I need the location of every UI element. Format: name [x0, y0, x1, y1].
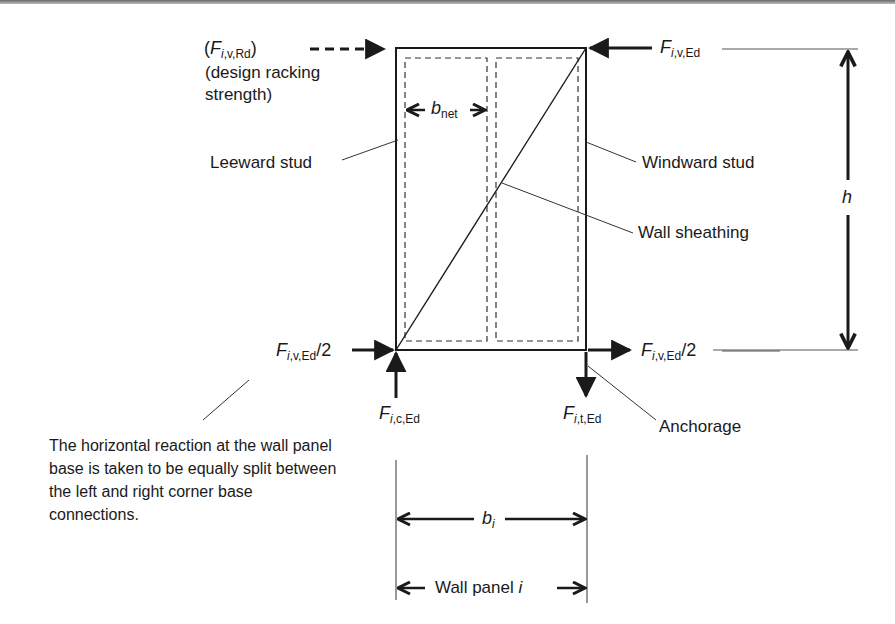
- note-leader: [203, 380, 249, 420]
- sheathing-diagonal: [396, 48, 586, 350]
- design-racking-label-line2: strength): [205, 85, 272, 104]
- height-label: h: [842, 187, 852, 207]
- leeward-stud-label: Leeward stud: [210, 153, 312, 172]
- tension-reaction-label: Fi,t,Ed: [563, 403, 601, 429]
- left-base-reaction-label: Fi,v,Ed/2: [276, 340, 331, 366]
- anchorage-label: Anchorage: [659, 417, 741, 436]
- windward-stud-label: Windward stud: [642, 153, 754, 172]
- wall-panel-label: Wall panel i: [435, 578, 522, 597]
- base-reaction-note: The horizontal reaction at the wall pane…: [49, 434, 339, 526]
- design-racking-label-line1: (design racking: [205, 63, 320, 82]
- wall-sheathing-label: Wall sheathing: [638, 223, 749, 242]
- net-width-label: bnet: [431, 98, 458, 124]
- applied-force-label: Fi,v,Ed: [660, 37, 700, 63]
- wall-panel-diagram: [0, 0, 895, 624]
- leeward-leader: [342, 140, 398, 160]
- design-racking-symbol: (Fi,v,Rd): [204, 38, 257, 64]
- right-base-reaction-label: Fi,v,Ed/2: [641, 340, 696, 366]
- sheathing-leader: [502, 183, 633, 233]
- compression-reaction-label: Fi,c,Ed: [379, 403, 420, 429]
- windward-leader: [586, 142, 636, 162]
- panel-width-label: bi: [482, 508, 495, 534]
